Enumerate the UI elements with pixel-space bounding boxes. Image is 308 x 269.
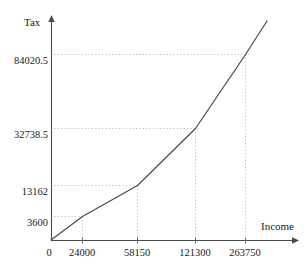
xtick-label-263750: 263750 — [215, 248, 275, 259]
x-axis-title: Income — [261, 221, 294, 232]
tax-income-chart: Tax Income 84020.5 32738.5 13162 3600 0 … — [0, 0, 308, 269]
ytick-label-3600: 3600 — [2, 218, 48, 229]
y-axis-arrow — [48, 15, 54, 22]
ytick-label-32738: 32738.5 — [2, 130, 48, 141]
xtick-label-58150: 58150 — [107, 248, 167, 259]
ytick-label-84020: 84020.5 — [2, 56, 48, 67]
x-axis-arrow — [292, 237, 299, 243]
ytick-label-13162: 13162 — [2, 187, 48, 198]
xtick-label-24000: 24000 — [52, 248, 112, 259]
tax-curve — [51, 21, 267, 240]
y-axis-title: Tax — [24, 17, 40, 28]
